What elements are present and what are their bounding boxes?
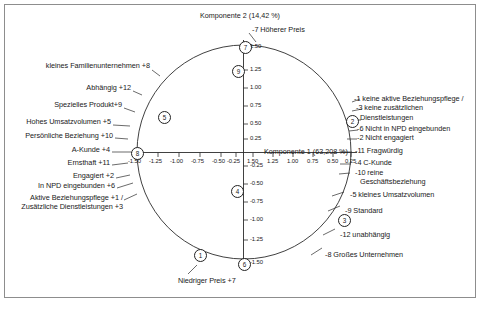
cluster-marker-3[interactable]: 3 (338, 214, 351, 227)
label-fragwuerdig: -11 Fragwürdig (355, 147, 403, 156)
label-engagiert: Engagiert +2 (14, 172, 114, 181)
label-niedriger-preis: Niedriger Preis +7 (178, 277, 236, 286)
label-c-kunde: -4 C-Kunde (355, 159, 392, 168)
cluster-marker-2[interactable]: 2 (346, 115, 359, 128)
label-abhaengig: Abhängig +12 (16, 84, 131, 93)
label-hohes-umsatzvolumen: Hohes Umsatzvolumen +5 (10, 118, 111, 127)
x-tick-neg-1-00: -1.00 (170, 158, 183, 165)
cluster-marker-4[interactable]: 4 (231, 185, 244, 198)
y-axis-ticks-upper (244, 47, 249, 139)
cluster-marker-6[interactable]: 6 (238, 258, 251, 271)
y-axis-ticks-lower (244, 166, 249, 263)
cluster-marker-8[interactable]: 8 (131, 147, 144, 160)
cluster-marker-7[interactable]: 7 (239, 41, 252, 54)
label-keine-zusaetzlichen: -3 keine zusätzlichen (356, 104, 423, 113)
cluster-marker-1[interactable]: 1 (194, 249, 207, 262)
cluster-marker-5[interactable]: 5 (158, 111, 171, 124)
x-axis-ticks-left (137, 153, 236, 158)
axis-label-component-2: Komponente 2 (14,42 %) (200, 12, 280, 20)
label-persoenliche-beziehung: Persönliche Beziehung +10 (8, 132, 113, 141)
x-tick-pos-1-00: 1.00 (287, 158, 298, 165)
label-spezielles-produkt: Spezielles Produkt+9 (16, 101, 122, 110)
label-unabhaengig: -12 unabhängig (340, 231, 390, 240)
y-tick-pos-1-00: 1.00 (250, 84, 261, 91)
y-tick-neg-1-25: -1.25 (250, 236, 263, 243)
x-tick-neg-1-25: -1.25 (149, 158, 162, 165)
y-tick-neg-0-25: -0.25 (250, 162, 263, 169)
label-standard: -9 Standard (345, 207, 383, 216)
y-tick-pos-0-25: 0.25 (250, 135, 261, 142)
label-ernsthaft: Ernsthaft +11 (14, 159, 110, 168)
x-tick-neg-0-50: -0.50 (212, 158, 225, 165)
label-hoeherer-preis: -7 Höherer Preis (252, 26, 305, 35)
label-kleines-umsatzvolumen: -5 kleines Umsatzvolumen (350, 191, 434, 200)
label-kleines-familienunternehmen: kleines Familienunternehmen +8 (16, 62, 150, 71)
label-nicht-engagiert: -2 Nicht engagiert (357, 134, 414, 143)
y-tick-neg-0-50: -0.50 (250, 180, 263, 187)
axis-label-component-1: Komponente 1 (63,208 %) (264, 148, 348, 156)
label-in-npd-eingebunden: In NPD eingebunden +6 (8, 182, 115, 191)
label-dienstleistungen: Dienstleistungen (360, 114, 413, 123)
x-tick-pos-0-50: 0.50 (327, 158, 338, 165)
y-tick-neg-1-50: -1.50 (250, 259, 263, 266)
y-tick-pos-1-25: 1.25 (250, 66, 261, 73)
y-tick-pos-0-50: 0.50 (250, 120, 261, 127)
y-tick-pos-0-75: 0.75 (250, 102, 261, 109)
cluster-marker-9[interactable]: 9 (232, 65, 245, 78)
label-geschaeftsbeziehung: Geschäftsbeziehung (360, 178, 426, 187)
label-grosses-unternehmen: -8 Großes Unternehmen (325, 251, 403, 260)
x-tick-pos-1-25: 1.25 (267, 158, 278, 165)
y-tick-neg-0-75: -0.75 (250, 198, 263, 205)
x-tick-pos-0-75: 0.75 (307, 158, 318, 165)
y-tick-neg-1-00: -1.00 (250, 216, 263, 223)
label-zusaetzliche-dienstleistungen: Zusätzliche Dienstleistungen +3 (8, 203, 123, 212)
x-tick-neg-0-75: -0.75 (191, 158, 204, 165)
label-a-kunde: A-Kunde +4 (14, 146, 110, 155)
x-tick-neg-0-25: -0.25 (227, 158, 240, 165)
